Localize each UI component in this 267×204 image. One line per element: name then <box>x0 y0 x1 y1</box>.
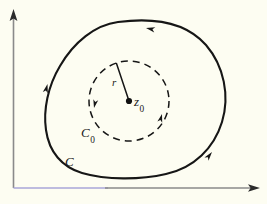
radius-line <box>117 64 130 102</box>
complex-plane-contour-figure: z0 r C0 C <box>0 0 267 204</box>
label-C0-base: C <box>81 125 90 140</box>
direction-arrow-icon <box>92 99 99 108</box>
label-z0: z0 <box>134 95 144 108</box>
direction-arrow-icon <box>157 113 164 123</box>
label-inner-circle: C0 <box>81 126 95 139</box>
label-outer-contour: C <box>65 155 74 168</box>
inner-circle-group <box>89 61 169 141</box>
label-z0-subscript: 0 <box>139 104 144 114</box>
direction-arrow-icon <box>145 25 155 32</box>
center-dot-icon <box>126 98 132 104</box>
label-C0-subscript: 0 <box>90 135 95 145</box>
label-radius: r <box>112 77 116 88</box>
